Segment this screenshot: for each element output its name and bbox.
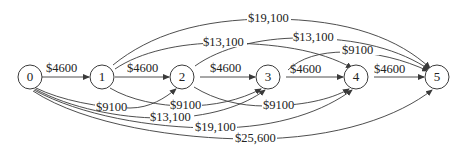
edge-label: $4600 [127,61,158,75]
node-label: 1 [99,69,106,84]
node-label: 0 [27,69,34,84]
edge-2-3: $4600 [200,61,255,77]
edge-label: $13,100 [293,30,334,44]
edge-0-5: $25,600 [33,90,432,145]
node-3: 3 [256,65,280,89]
node-0: 0 [18,65,42,89]
node-2: 2 [170,65,194,89]
edge-0-1: $4600 [42,61,89,77]
edge-0-3: $13,100 [35,89,265,124]
node-5: 5 [425,65,449,89]
edge-label: $19,100 [248,11,289,25]
edge-4-5: $4600 [374,62,424,77]
network-diagram: $4600 $4600 $4600 $4600 $4600 $9100 $13,… [0,0,465,153]
node-1: 1 [90,65,114,89]
edge-label: $4600 [374,62,405,76]
edge-1-3: $9100 [110,88,261,112]
diagram-svg: $4600 $4600 $4600 $4600 $4600 $9100 $13,… [0,0,465,153]
edge-label: $4600 [210,61,241,75]
node-label: 4 [353,69,360,84]
node-label: 5 [434,69,441,84]
node-label: 3 [265,69,272,84]
edge-label: $9100 [263,98,294,112]
edge-label: $13,100 [150,110,191,124]
edge-2-4: $9100 [194,87,349,112]
node-label: 2 [179,69,186,84]
edge-label: $25,600 [235,131,276,145]
edge-label: $19,100 [195,120,236,134]
edge-label: $13,100 [203,35,244,49]
edge-label: $4600 [46,61,77,75]
edge-1-2: $4600 [115,61,169,77]
node-4: 4 [344,65,368,89]
